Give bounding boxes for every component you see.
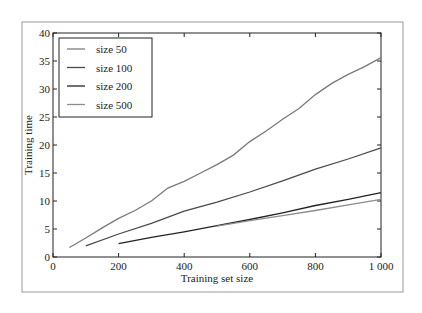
y-tick-label: 0 <box>45 251 51 263</box>
y-tick-label: 20 <box>39 139 51 151</box>
chart: 02004006008001 0000510152025303540 size … <box>0 0 422 313</box>
x-tick-label: 1 000 <box>369 260 394 272</box>
x-axis-label: Training set size <box>181 272 253 284</box>
y-tick-label: 10 <box>39 195 51 207</box>
x-tick-label: 200 <box>110 260 127 272</box>
x-tick-label: 400 <box>176 260 193 272</box>
y-axis-label: Training time <box>22 115 34 175</box>
legend-label: size 200 <box>96 80 133 92</box>
legend: size 50size 100size 200size 500 <box>59 38 152 117</box>
x-tick-label: 800 <box>307 260 324 272</box>
x-tick-label: 600 <box>242 260 259 272</box>
x-tick-label: 0 <box>50 260 56 272</box>
y-tick-label: 5 <box>45 223 51 235</box>
y-tick-label: 15 <box>39 167 51 179</box>
y-tick-label: 25 <box>39 111 51 123</box>
y-tick-label: 40 <box>39 27 51 39</box>
legend-label: size 50 <box>96 43 127 55</box>
legend-label: size 500 <box>96 99 133 111</box>
y-tick-label: 30 <box>39 83 51 95</box>
y-tick-label: 35 <box>39 55 51 67</box>
legend-label: size 100 <box>96 62 133 74</box>
